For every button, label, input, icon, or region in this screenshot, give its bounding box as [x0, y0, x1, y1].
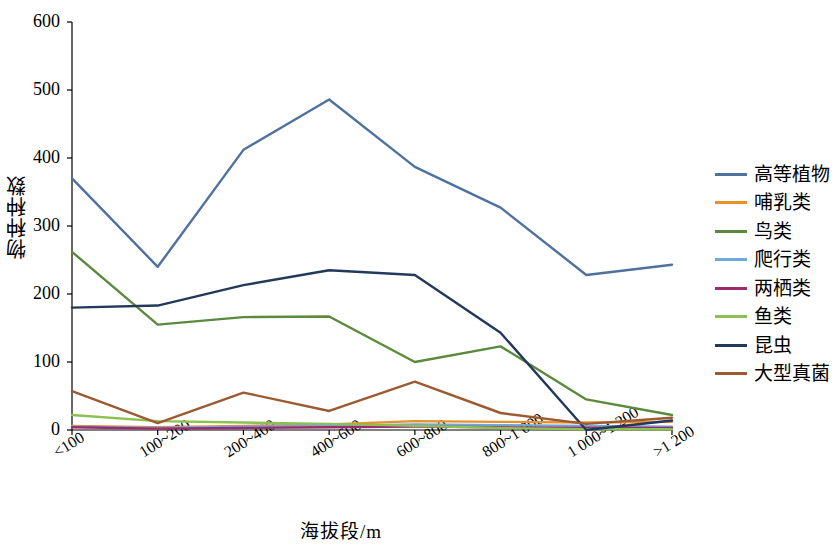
- legend-label: 哺乳类: [754, 193, 811, 212]
- legend-item[interactable]: 两栖类: [715, 274, 839, 303]
- legend-item[interactable]: 鱼类: [715, 303, 839, 332]
- legend-swatch: [715, 372, 747, 375]
- chart-legend: 高等植物哺乳类鸟类爬行类两栖类鱼类昆虫大型真菌: [715, 160, 839, 388]
- legend-swatch: [715, 258, 747, 261]
- legend-swatch: [715, 201, 747, 204]
- legend-item[interactable]: 高等植物: [715, 160, 839, 189]
- legend-label: 高等植物: [754, 165, 830, 184]
- legend-label: 昆虫: [754, 336, 792, 355]
- series-line: [72, 270, 672, 430]
- chart-plot-area: [0, 0, 839, 550]
- legend-label: 大型真菌: [754, 364, 830, 383]
- legend-item[interactable]: 鸟类: [715, 217, 839, 246]
- legend-swatch: [715, 315, 747, 318]
- legend-item[interactable]: 哺乳类: [715, 189, 839, 218]
- legend-label: 两栖类: [754, 279, 811, 298]
- legend-item[interactable]: 昆虫: [715, 331, 839, 360]
- chart-root: 物种种数 海拔段/m 0100200300400500600 <100100~2…: [0, 0, 839, 550]
- legend-item[interactable]: 大型真菌: [715, 360, 839, 389]
- legend-swatch: [715, 287, 747, 290]
- legend-label: 鸟类: [754, 222, 792, 241]
- legend-swatch: [715, 344, 747, 347]
- legend-swatch: [715, 173, 747, 176]
- legend-label: 爬行类: [754, 250, 811, 269]
- legend-item[interactable]: 爬行类: [715, 246, 839, 275]
- series-line: [72, 252, 672, 415]
- legend-label: 鱼类: [754, 307, 792, 326]
- series-line: [72, 100, 672, 275]
- series-line: [72, 382, 672, 424]
- legend-swatch: [715, 230, 747, 233]
